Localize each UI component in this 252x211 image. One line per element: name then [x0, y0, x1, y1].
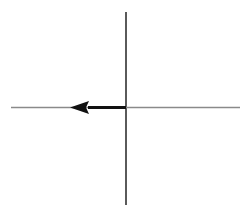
figure-container: Coordinate axes with leftward horizontal…	[0, 0, 252, 211]
axes-diagram-svg	[0, 0, 252, 211]
